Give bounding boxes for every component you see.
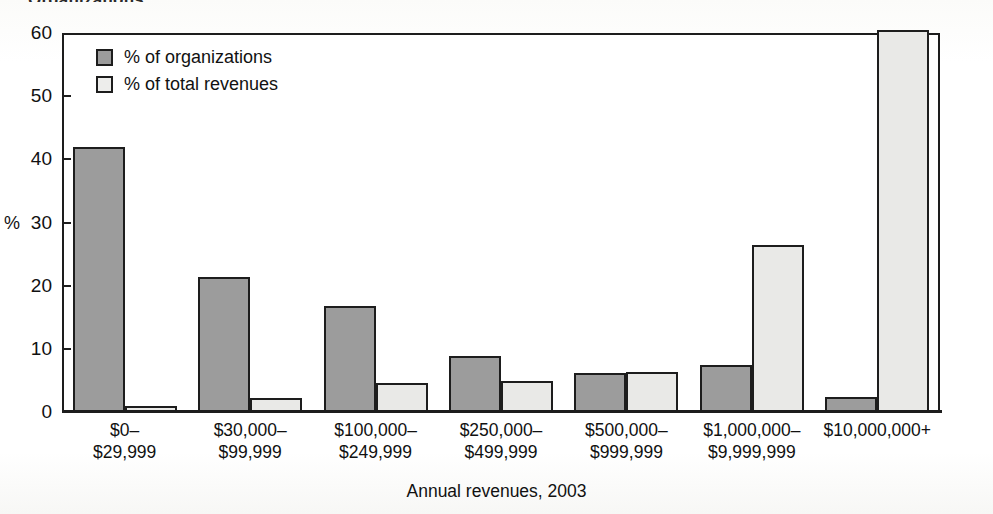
- bar-total-revenues: [501, 381, 553, 412]
- x-axis-category-label: $0–$29,999: [62, 419, 187, 464]
- x-label-line-1: $500,000–: [585, 420, 668, 440]
- bar-total-revenues: [752, 245, 804, 412]
- x-label-line-1: $10,000,000+: [824, 420, 932, 440]
- y-axis-tick-label: 10: [6, 339, 52, 358]
- legend-item: % of organizations: [96, 48, 278, 66]
- y-axis-tick-label: 30: [6, 213, 52, 232]
- bar-group: [689, 33, 814, 412]
- x-axis-title: Annual revenues, 2003: [0, 481, 993, 502]
- bar-organizations: [324, 306, 376, 412]
- dark-swatch-icon: [96, 49, 113, 66]
- y-axis-tick-label: 60: [6, 23, 52, 42]
- x-label-line-1: $1,000,000–: [703, 420, 800, 440]
- y-axis-tick-mark: [62, 95, 71, 97]
- x-axis-category-label: $100,000–$249,999: [313, 419, 438, 464]
- bar-group: [313, 33, 438, 412]
- x-label-line-1: $100,000–: [334, 420, 417, 440]
- x-axis-tick-labels: $0–$29,999$30,000–$99,999$100,000–$249,9…: [62, 419, 940, 477]
- bar-organizations: [700, 365, 752, 412]
- x-label-line-2: $29,999: [62, 441, 187, 463]
- bar-group: [438, 33, 563, 412]
- x-axis-baseline: [62, 410, 942, 413]
- x-axis-category-label: $10,000,000+: [815, 419, 940, 441]
- chart-legend: % of organizations% of total revenues: [96, 48, 278, 102]
- bar-group: [564, 33, 689, 412]
- bar-organizations: [574, 373, 626, 412]
- y-axis-tick-mark: [62, 158, 71, 160]
- x-label-line-2: $249,999: [313, 441, 438, 463]
- bar-total-revenues: [877, 30, 929, 412]
- y-axis-tick-label: 20: [6, 276, 52, 295]
- x-axis-category-label: $30,000–$99,999: [187, 419, 312, 464]
- y-axis-tick-mark: [62, 222, 71, 224]
- bar-organizations: [73, 147, 125, 412]
- bar-total-revenues: [626, 372, 678, 412]
- light-swatch-icon: [96, 76, 113, 93]
- y-axis-tick-mark: [62, 285, 71, 287]
- legend-item-label: % of organizations: [124, 48, 272, 66]
- x-axis-category-label: $500,000–$999,999: [564, 419, 689, 464]
- bar-group: [815, 33, 940, 412]
- bar-total-revenues: [376, 383, 428, 412]
- x-label-line-1: $0–: [110, 420, 139, 440]
- x-label-line-2: $999,999: [564, 441, 689, 463]
- legend-item: % of total revenues: [96, 75, 278, 93]
- y-axis-tick-label: 40: [6, 149, 52, 168]
- y-axis-tick-label: 50: [6, 86, 52, 105]
- x-label-line-2: $9,999,999: [689, 441, 814, 463]
- bar-organizations: [198, 277, 250, 412]
- cut-off-chart-title: Organizations: [28, 0, 144, 2]
- x-axis-category-label: $250,000–$499,999: [438, 419, 563, 464]
- bar-organizations: [449, 356, 501, 412]
- x-label-line-1: $250,000–: [460, 420, 543, 440]
- x-axis-category-label: $1,000,000–$9,999,999: [689, 419, 814, 464]
- x-label-line-2: $499,999: [438, 441, 563, 463]
- y-axis-tick-label: 0: [6, 402, 52, 421]
- y-axis-tick-mark: [62, 348, 71, 350]
- x-label-line-2: $99,999: [187, 441, 312, 463]
- x-label-line-1: $30,000–: [214, 420, 287, 440]
- legend-item-label: % of total revenues: [124, 75, 278, 93]
- chart-figure: Organizations % % of organizations% of t…: [0, 0, 993, 514]
